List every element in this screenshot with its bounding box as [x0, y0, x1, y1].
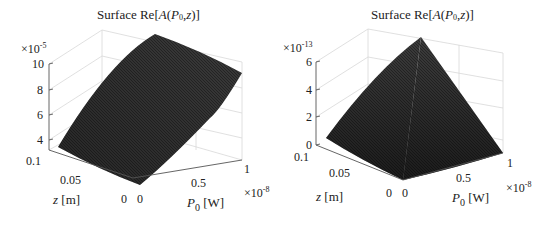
- right-xtick: 0.5: [456, 172, 471, 184]
- left-ztick: 6: [37, 109, 43, 121]
- right-ztick: 4: [306, 84, 312, 96]
- right-ztick: 6: [306, 56, 312, 68]
- left-z-multiplier: ×10-5: [21, 42, 46, 55]
- left-ztick: 10: [32, 58, 44, 70]
- right-surface-plot: Surface Re[A(P0,z)]: [276, 0, 551, 227]
- right-ztick: 2: [306, 111, 312, 123]
- right-ytick: 0.05: [329, 167, 350, 179]
- left-z-axis-label: z [m]: [53, 192, 80, 208]
- right-x-multiplier: ×10-8: [506, 181, 531, 194]
- left-ytick: 0.1: [26, 155, 41, 167]
- right-xtick: 0: [402, 187, 408, 199]
- right-ytick: 0.1: [294, 151, 309, 163]
- left-ytick: 0: [121, 193, 127, 205]
- left-xtick: 1: [244, 163, 250, 175]
- left-ztick: 8: [37, 84, 43, 96]
- left-surface-plot: Surface Re[A(P0,z)]: [0, 0, 275, 227]
- left-x-multiplier: ×10-8: [244, 186, 269, 199]
- right-ytick: 0: [386, 187, 392, 199]
- right-z-axis-label: z [m]: [316, 189, 343, 205]
- left-ztick: 4: [37, 134, 43, 146]
- right-p-axis-label: P0 [W]: [452, 190, 489, 208]
- left-xtick: 0: [137, 193, 143, 205]
- left-p-axis-label: P0 [W]: [187, 195, 224, 213]
- right-z-multiplier: ×10-13: [283, 41, 312, 54]
- left-xtick: 0.5: [191, 177, 206, 189]
- right-xtick: 1: [507, 157, 513, 169]
- left-ytick: 0.05: [60, 174, 81, 186]
